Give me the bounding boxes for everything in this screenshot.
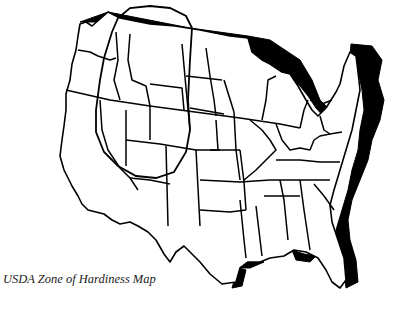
us-map bbox=[0, 0, 395, 310]
map-caption: USDA Zone of Hardiness Map bbox=[3, 272, 156, 287]
